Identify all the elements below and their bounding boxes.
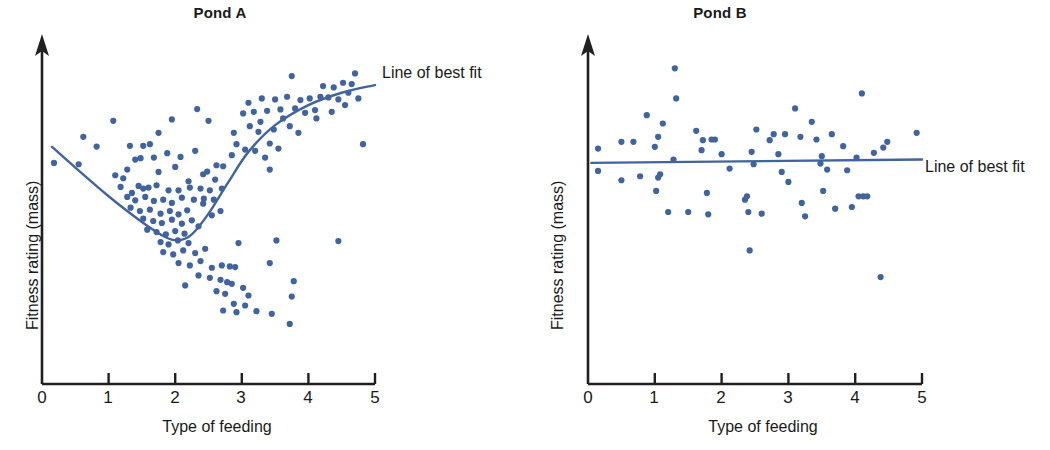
scatter-point bbox=[630, 139, 636, 145]
scatter-point bbox=[132, 197, 138, 203]
scatter-point bbox=[618, 177, 624, 183]
scatter-point bbox=[182, 282, 188, 288]
scatter-point bbox=[655, 134, 661, 140]
scatter-point bbox=[247, 123, 253, 129]
scatter-point bbox=[262, 154, 268, 160]
axis-lines-pond-a bbox=[42, 50, 375, 384]
scatter-point bbox=[220, 163, 226, 169]
scatter-point bbox=[164, 150, 170, 156]
scatter-point bbox=[76, 161, 82, 167]
scatter-point bbox=[80, 134, 86, 140]
scatter-point bbox=[160, 249, 166, 255]
scatter-point bbox=[165, 241, 171, 247]
scatter-point bbox=[177, 154, 183, 160]
scatter-point bbox=[167, 208, 173, 214]
scatter-point bbox=[275, 145, 281, 151]
scatter-point bbox=[170, 251, 176, 257]
scatter-point bbox=[312, 107, 318, 113]
scatter-point bbox=[135, 183, 141, 189]
scatter-point bbox=[637, 173, 643, 179]
scatter-point bbox=[155, 130, 161, 136]
scatter-point bbox=[849, 204, 855, 210]
panel-pond-a: Pond A Fitness rating (mass) Type of fee… bbox=[0, 0, 525, 450]
scatter-point bbox=[342, 102, 348, 108]
scatter-point bbox=[665, 209, 671, 215]
scatter-point bbox=[269, 311, 275, 317]
scatter-point bbox=[205, 118, 211, 124]
scatter-point bbox=[137, 155, 143, 161]
scatter-point bbox=[217, 277, 223, 283]
scatter-point bbox=[189, 217, 195, 223]
scatter-point bbox=[284, 94, 290, 100]
scatter-point bbox=[595, 145, 601, 151]
scatter-point bbox=[914, 130, 920, 136]
scatter-point bbox=[832, 206, 838, 212]
scatter-point bbox=[693, 128, 699, 134]
scatter-point bbox=[94, 143, 100, 149]
scatter-point bbox=[355, 95, 361, 101]
scatter-point bbox=[153, 182, 159, 188]
scatter-point bbox=[219, 262, 225, 268]
scatter-point bbox=[719, 151, 725, 157]
x-axis-ticks-pond-a bbox=[109, 373, 375, 384]
scatter-point bbox=[151, 154, 157, 160]
scatter-point bbox=[749, 149, 755, 155]
scatter-point bbox=[245, 292, 251, 298]
scatter-point bbox=[137, 208, 143, 214]
scatter-point bbox=[782, 131, 788, 137]
scatter-point bbox=[644, 112, 650, 118]
scatter-point bbox=[257, 119, 263, 125]
scatter-point bbox=[771, 131, 777, 137]
scatter-point bbox=[194, 106, 200, 112]
scatter-point bbox=[180, 247, 186, 253]
scatter-point bbox=[192, 250, 198, 256]
plot-area-pond-b bbox=[525, 0, 1050, 450]
scatter-point bbox=[672, 65, 678, 71]
scatter-point bbox=[181, 231, 187, 237]
scatter-point bbox=[151, 198, 157, 204]
scatter-point bbox=[159, 220, 165, 226]
scatter-point bbox=[653, 188, 659, 194]
scatter-point bbox=[302, 110, 308, 116]
scatter-point bbox=[329, 109, 335, 115]
scatter-point bbox=[220, 307, 226, 313]
scatter-point bbox=[267, 140, 273, 146]
scatter-point bbox=[313, 115, 319, 121]
scatter-point bbox=[727, 165, 733, 171]
scatter-point bbox=[864, 193, 870, 199]
scatter-point bbox=[349, 81, 355, 87]
scatter-point bbox=[820, 188, 826, 194]
scatter-point bbox=[187, 185, 193, 191]
scatter-point bbox=[175, 211, 181, 217]
scatter-point bbox=[127, 205, 133, 211]
scatter-point bbox=[213, 288, 219, 294]
scatter-point bbox=[840, 143, 846, 149]
scatter-point bbox=[227, 263, 233, 269]
scatter-point bbox=[704, 190, 710, 196]
scatter-point bbox=[157, 239, 163, 245]
scatter-point bbox=[179, 221, 185, 227]
scatter-point bbox=[655, 174, 661, 180]
scatter-point bbox=[297, 97, 303, 103]
scatter-point bbox=[207, 187, 213, 193]
scatter-point bbox=[169, 116, 175, 122]
scatter-point bbox=[179, 195, 185, 201]
scatter-point bbox=[191, 197, 197, 203]
scatter-point bbox=[252, 148, 258, 154]
scatter-point bbox=[753, 126, 759, 132]
scatter-point bbox=[779, 169, 785, 175]
scatter-point bbox=[792, 105, 798, 111]
scatter-point bbox=[212, 176, 218, 182]
scatter-point bbox=[157, 211, 163, 217]
scatter-point bbox=[120, 175, 126, 181]
scatter-point bbox=[240, 110, 246, 116]
scatter-point bbox=[700, 137, 706, 143]
axis-lines-pond-b bbox=[588, 50, 922, 384]
scatter-point bbox=[289, 73, 295, 79]
scatter-point bbox=[204, 168, 210, 174]
scatter-point bbox=[172, 228, 178, 234]
scatter-point bbox=[229, 152, 235, 158]
scatter-point bbox=[155, 169, 161, 175]
scatter-point bbox=[185, 178, 191, 184]
scatter-point bbox=[233, 309, 239, 315]
